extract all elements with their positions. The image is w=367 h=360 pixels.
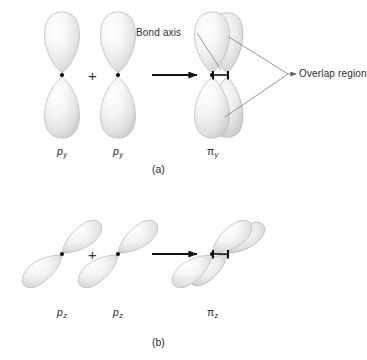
pi-orbital-y-subscript: y	[215, 150, 219, 159]
p-orbital-y-1-shape	[45, 12, 80, 138]
p-orbital-z-2-subscript: z	[119, 311, 123, 320]
p-orbital-z-2-label: pz	[113, 307, 123, 320]
p-orbital-y-1-subscript: y	[63, 150, 67, 159]
p-orbital-y-2-label: py	[113, 146, 123, 159]
pi-orbital-z-subscript: z	[215, 311, 219, 320]
pi-orbital-z-back-shape	[189, 222, 265, 286]
panel-b-caption: (b)	[152, 337, 165, 348]
panel-a-caption: (a)	[152, 164, 165, 175]
overlap-region-callout: Overlap region	[299, 69, 367, 79]
p-orbital-y-2-shape	[101, 12, 136, 138]
overlap-leader-lower	[225, 74, 288, 117]
pi-orbital-z-base: π	[207, 306, 214, 318]
overlap-leader-upper	[229, 37, 288, 74]
p-orbital-z-1-label: pz	[57, 307, 67, 320]
plus-operator-a: +	[88, 68, 97, 83]
p-orbital-z-1-subscript: z	[63, 311, 67, 320]
p-orbital-y-2-subscript: y	[119, 150, 123, 159]
plus-operator-b: +	[88, 247, 97, 262]
panel-b-artwork	[22, 220, 265, 288]
pi-orbital-y-label: πy	[207, 146, 218, 159]
pi-orbital-z-label: πz	[207, 307, 218, 320]
pi-orbital-y-base: π	[207, 145, 214, 157]
pi-orbital-y-front-shape	[195, 12, 230, 138]
pi-orbital-z-front-shape	[172, 220, 252, 288]
bond-axis-leader	[197, 33, 221, 70]
p-orbital-y-1-label: py	[57, 146, 67, 159]
bond-axis-callout: Bond axis	[136, 28, 181, 38]
pi-orbital-y-back-shape	[211, 13, 243, 138]
